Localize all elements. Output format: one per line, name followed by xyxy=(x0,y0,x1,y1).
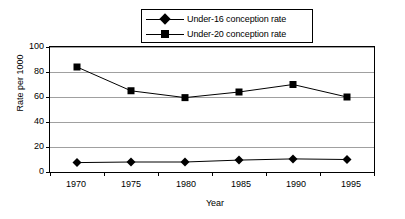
data-point-square xyxy=(74,64,81,71)
gridlines xyxy=(46,48,374,173)
data-point-diamond xyxy=(181,158,190,167)
conception-rate-line-chart: Under-16 conception rate Under-20 concep… xyxy=(0,0,405,219)
data-series-layer xyxy=(73,64,352,168)
data-point-square xyxy=(236,89,243,96)
series-2 xyxy=(74,64,351,102)
plot-border xyxy=(50,47,375,173)
data-point-diamond xyxy=(289,154,298,163)
data-point-diamond xyxy=(73,158,82,167)
data-point-square xyxy=(290,81,297,88)
data-point-diamond xyxy=(235,156,244,165)
series-line xyxy=(77,159,347,163)
series-line xyxy=(77,67,347,98)
data-point-square xyxy=(128,87,135,94)
data-point-square xyxy=(182,94,189,101)
data-point-diamond xyxy=(343,155,352,164)
data-point-square xyxy=(344,94,351,101)
plot-area xyxy=(0,0,405,219)
series-1 xyxy=(73,154,352,167)
data-point-diamond xyxy=(127,158,136,167)
